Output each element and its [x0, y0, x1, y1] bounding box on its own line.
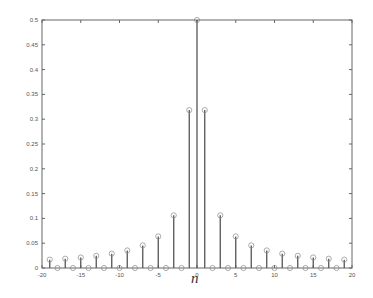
y-tick-label: 0	[35, 265, 39, 271]
x-tick-label: 10	[271, 272, 278, 278]
y-tick-label: 0.4	[30, 67, 39, 73]
x-tick-label: 20	[349, 272, 356, 278]
y-tick-label: 0.1	[30, 215, 39, 221]
x-axis-label: n	[191, 270, 199, 287]
x-tick-label: -15	[76, 272, 85, 278]
x-tick-label: -5	[156, 272, 162, 278]
y-tick-label: 0.25	[26, 141, 38, 147]
y-tick-label: 0.2	[30, 166, 39, 172]
y-tick-label: 0.5	[30, 17, 39, 23]
stem-plot: 00.050.10.150.20.250.30.350.40.450.5-20-…	[0, 0, 373, 298]
y-tick-label: 0.15	[26, 191, 38, 197]
x-tick-label: 15	[310, 272, 317, 278]
y-tick-label: 0.3	[30, 116, 39, 122]
x-tick-label: -10	[115, 272, 124, 278]
x-tick-label: 5	[234, 272, 238, 278]
y-tick-label: 0.35	[26, 91, 38, 97]
y-tick-label: 0.05	[26, 240, 38, 246]
x-tick-label: -20	[38, 272, 47, 278]
y-tick-label: 0.45	[26, 42, 38, 48]
